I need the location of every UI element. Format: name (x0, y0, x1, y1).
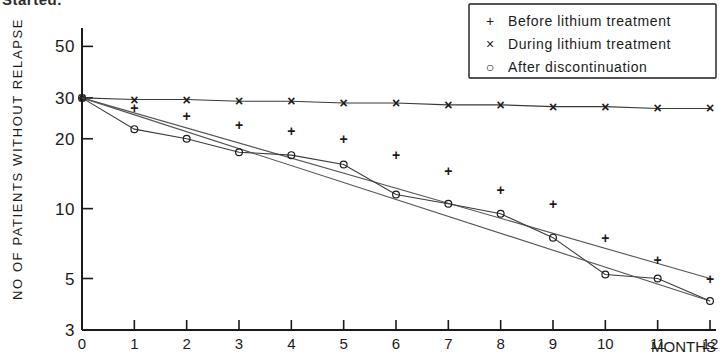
y-axis-title: NO OF PATIENTS WITHOUT RELAPSE (10, 18, 25, 300)
data-point-plus: + (287, 123, 295, 139)
data-point-cross: × (706, 100, 714, 116)
data-point-plus: + (235, 117, 243, 133)
legend-marker-0: + (486, 13, 494, 29)
legend-label-1: During lithium treatment (508, 36, 671, 52)
data-point-plus: + (497, 182, 505, 198)
x-tick-label: 7 (444, 335, 452, 352)
series-trend-line (82, 98, 710, 279)
data-point-cross: × (287, 93, 295, 109)
x-tick-label: 1 (130, 335, 138, 352)
data-point-plus: + (601, 230, 609, 246)
x-tick-label: 6 (392, 335, 400, 352)
x-tick-label: 0 (78, 335, 86, 352)
data-point-plus: + (654, 252, 662, 268)
data-point-plus: + (549, 196, 557, 212)
y-axis-ticks: 5030201053 (55, 37, 93, 340)
y-tick-label: 30 (55, 89, 75, 108)
series-trend-line (82, 98, 710, 301)
series-x: ××××××××××××× (78, 90, 714, 117)
series-layer: +++++++++++++××××××××××××× (78, 90, 714, 305)
legend-marker-2: ○ (486, 59, 494, 75)
relapse-survival-chart: NO OF PATIENTS WITHOUT RELAPSE 503020105… (0, 0, 722, 359)
data-point-cross: × (340, 95, 348, 111)
data-point-plus: + (183, 108, 191, 124)
data-point-plus: + (706, 271, 714, 287)
y-tick-label: 20 (55, 130, 75, 149)
data-point-plus: + (340, 131, 348, 147)
data-point-plus: + (444, 163, 452, 179)
legend-items: +Before lithium treatment×During lithium… (486, 13, 671, 75)
data-point-cross: × (444, 97, 452, 113)
data-point-cross: × (549, 99, 557, 115)
legend-marker-1: × (486, 36, 494, 52)
legend-label-0: Before lithium treatment (508, 13, 671, 29)
x-tick-label: 3 (235, 335, 243, 352)
data-point-cross: × (497, 97, 505, 113)
x-axis-title-text: MONTHS (651, 338, 716, 355)
data-point-cross: × (392, 95, 400, 111)
x-tick-label: 4 (287, 335, 295, 352)
y-tick-label: 5 (65, 270, 75, 289)
series-o (79, 94, 714, 304)
legend-label-2: After discontinuation (508, 59, 647, 75)
x-tick-label: 9 (549, 335, 557, 352)
x-tick-label: 2 (182, 335, 190, 352)
data-point-cross: × (183, 92, 191, 108)
x-tick-label: 8 (496, 335, 504, 352)
y-tick-label: 3 (65, 321, 75, 340)
y-axis-title-text: NO OF PATIENTS WITHOUT RELAPSE (10, 18, 25, 300)
data-point-plus: + (392, 147, 400, 163)
data-point-cross: × (130, 92, 138, 108)
data-point-cross: × (601, 99, 609, 115)
x-axis-ticks: 0123456789101112 (78, 320, 719, 352)
figure-container: Started. NO OF PATIENTS WITHOUT RELAPSE … (0, 0, 722, 359)
x-tick-label: 10 (597, 335, 614, 352)
x-tick-label: 5 (339, 335, 347, 352)
legend: +Before lithium treatment×During lithium… (469, 4, 716, 78)
series-+: +++++++++++++ (78, 90, 714, 287)
y-tick-label: 10 (55, 200, 75, 219)
data-point-cross: × (654, 100, 662, 116)
data-point-cross: × (235, 93, 243, 109)
y-tick-label: 50 (55, 37, 75, 56)
